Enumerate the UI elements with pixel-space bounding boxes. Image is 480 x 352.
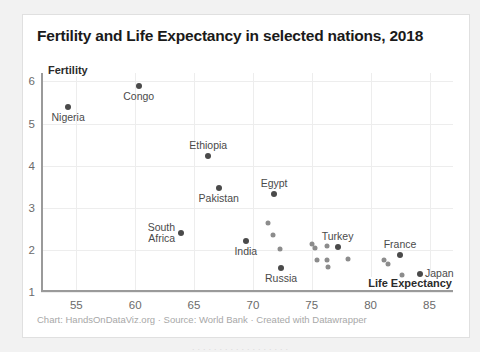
- page-title: Fertility and Life Expectancy in selecte…: [37, 27, 457, 45]
- x-axis-tick-label: 80: [364, 299, 377, 311]
- clipped-caption-strip: · · · · · · · · · · · · · · · · · ·: [0, 344, 480, 352]
- x-axis-line: [41, 290, 453, 292]
- data-point-label: Congo: [123, 91, 154, 102]
- x-axis-tick-label: 75: [305, 299, 318, 311]
- data-point-congo[interactable]: [136, 83, 142, 89]
- data-point-label: SouthAfrica: [148, 222, 175, 245]
- gridline-vertical: [194, 73, 195, 292]
- data-point-ethiopia[interactable]: [205, 153, 211, 159]
- data-point[interactable]: [266, 220, 271, 225]
- data-point-pakistan[interactable]: [216, 185, 222, 191]
- gridline-horizontal: [41, 292, 453, 293]
- y-axis-tick-label: 1: [29, 286, 35, 298]
- gridline-horizontal: [41, 81, 453, 82]
- data-point[interactable]: [278, 247, 283, 252]
- gridline-horizontal: [41, 208, 453, 209]
- data-point[interactable]: [326, 264, 331, 269]
- data-point-label: Russia: [265, 273, 297, 284]
- data-point-label: Egypt: [261, 177, 288, 188]
- x-axis-tick-label: 55: [70, 299, 83, 311]
- x-axis-tick-label: 65: [188, 299, 201, 311]
- data-point-india[interactable]: [243, 238, 249, 244]
- data-point-japan[interactable]: [417, 271, 423, 277]
- gridline-vertical: [76, 73, 77, 292]
- data-point-label: India: [234, 246, 257, 257]
- data-point[interactable]: [386, 262, 391, 267]
- data-point-label: Pakistan: [199, 193, 239, 204]
- data-point[interactable]: [270, 232, 275, 237]
- data-point-label: Japan: [425, 269, 454, 280]
- y-axis-tick-label: 5: [29, 118, 35, 130]
- gridline-vertical: [430, 73, 431, 292]
- x-axis-tick-label: 60: [129, 299, 142, 311]
- data-point[interactable]: [381, 258, 386, 263]
- data-point-egypt[interactable]: [271, 191, 277, 197]
- gridline-vertical: [253, 73, 254, 292]
- data-point[interactable]: [313, 245, 318, 250]
- data-point-nigeria[interactable]: [65, 104, 71, 110]
- chart-footer-credits: Chart: HandsOnDataViz.org · Source: Worl…: [37, 314, 367, 325]
- gridline-vertical: [135, 73, 136, 292]
- data-point[interactable]: [314, 257, 319, 262]
- data-point-label: Turkey: [322, 231, 354, 242]
- data-point-label: Ethiopia: [189, 139, 227, 150]
- data-point[interactable]: [325, 244, 330, 249]
- data-point-russia[interactable]: [278, 265, 284, 271]
- data-point[interactable]: [346, 257, 351, 262]
- y-axis-line: [41, 73, 43, 292]
- y-axis-tick-label: 4: [29, 160, 35, 172]
- gridline-horizontal: [41, 124, 453, 125]
- chart-card: Fertility and Life Expectancy in selecte…: [22, 14, 470, 338]
- y-axis-title: Fertility: [47, 64, 91, 76]
- gridline-vertical: [312, 73, 313, 292]
- data-point-label: France: [384, 239, 417, 250]
- data-point-turkey[interactable]: [335, 244, 341, 250]
- gridline-vertical: [371, 73, 372, 292]
- y-axis-tick-label: 6: [29, 75, 35, 87]
- gridline-horizontal: [41, 166, 453, 167]
- data-point[interactable]: [400, 273, 405, 278]
- x-axis-tick-label: 70: [246, 299, 259, 311]
- data-point-france[interactable]: [397, 252, 403, 258]
- data-point[interactable]: [325, 257, 330, 262]
- x-axis-tick-label: 85: [423, 299, 436, 311]
- y-axis-tick-label: 2: [29, 244, 35, 256]
- data-point-south-africa[interactable]: [178, 230, 184, 236]
- data-point-label: Nigeria: [51, 112, 84, 123]
- y-axis-tick-label: 3: [29, 202, 35, 214]
- scatter-plot-area: 123456 55606570758085 Fertility Life Exp…: [41, 73, 453, 292]
